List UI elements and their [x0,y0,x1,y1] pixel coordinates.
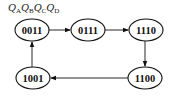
state-0111: 0111 [71,19,105,41]
state-0011: 0011 [15,19,49,41]
state-label: 0111 [78,25,98,36]
state-label: 0011 [22,25,42,36]
header-variables: QAQBQCQD [8,1,59,15]
state-label: 1110 [136,25,156,36]
state-1110: 1110 [129,19,163,41]
state-label: 1001 [23,73,44,84]
state-1001: 1001 [16,67,50,89]
state-diagram: QAQBQCQD 0011 0111 1110 1100 1001 [0,0,176,101]
state-1100: 1100 [128,67,162,89]
state-label: 1100 [135,73,155,84]
